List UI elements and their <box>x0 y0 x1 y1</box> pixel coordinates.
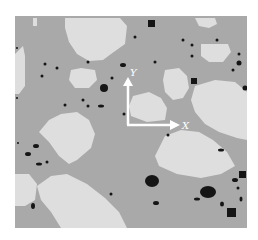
micrograph-image: Y X <box>15 16 247 228</box>
x-axis-label: X <box>181 120 190 131</box>
